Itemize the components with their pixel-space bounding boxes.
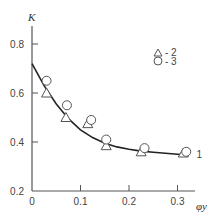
x-tick-label: 0.3 — [171, 196, 185, 207]
circle-marker — [42, 76, 51, 85]
circle-marker — [182, 147, 191, 156]
legend: - 2 - 3 — [154, 47, 177, 67]
x-tick-label: 0.1 — [74, 196, 88, 207]
circle-marker — [102, 135, 111, 144]
circle-marker — [62, 101, 71, 110]
y-axis-label: K — [27, 11, 36, 23]
x-tick-label: 0.2 — [122, 196, 136, 207]
x-axis-label: φy — [196, 200, 207, 212]
y-tick-label: 0.2 — [10, 186, 24, 197]
y-tick-label: 0.8 — [10, 39, 24, 50]
circle-icon — [154, 57, 162, 65]
legend-label-3: - 3 — [165, 56, 177, 67]
triangle-marker — [42, 88, 52, 97]
circle-marker — [87, 115, 96, 124]
ticks: 00.10.20.30.20.40.60.8 — [10, 39, 185, 207]
triangle-icon — [154, 49, 162, 56]
chart: 00.10.20.30.20.40.60.8 K φy 1 - 2 - 3 — [0, 0, 216, 223]
y-tick-label: 0.4 — [10, 137, 24, 148]
circle-marker — [140, 144, 149, 153]
curve-label-1: 1 — [196, 149, 202, 160]
y-tick-label: 0.6 — [10, 88, 24, 99]
triangle-marker — [61, 113, 71, 122]
data-points — [42, 76, 191, 157]
x-tick-label: 0 — [29, 196, 35, 207]
